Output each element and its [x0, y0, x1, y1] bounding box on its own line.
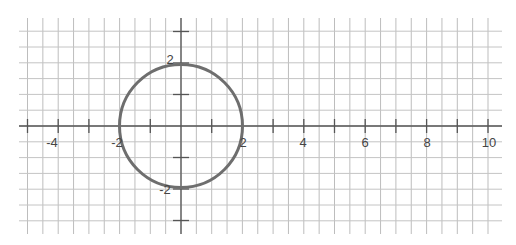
x-label-neg4: -4: [46, 135, 58, 150]
x-label-2: 2: [239, 135, 246, 150]
y-label-2: 2: [166, 52, 173, 67]
x-label-6: 6: [361, 135, 368, 150]
tick-labels: -4 -2 2 4 6 8 10 2 -2: [46, 52, 496, 197]
x-label-8: 8: [423, 135, 430, 150]
x-label-neg2: -2: [111, 135, 123, 150]
x-label-4: 4: [299, 135, 306, 150]
axes: [19, 18, 502, 234]
y-label-neg2: -2: [159, 182, 171, 197]
coordinate-plane: -4 -2 2 4 6 8 10 2 -2: [0, 0, 516, 245]
x-label-10: 10: [482, 135, 496, 150]
